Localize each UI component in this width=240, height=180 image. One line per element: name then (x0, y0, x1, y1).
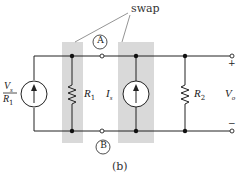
r1-label: R1 (84, 87, 95, 102)
left-source-label-numerator: Vs (4, 80, 13, 94)
terminal-b-label: B (99, 140, 108, 150)
minus-sign: − (228, 118, 236, 128)
swap-annotation: swap (131, 2, 160, 15)
r2-label: R2 (194, 87, 205, 102)
output-voltage-label: Vo (225, 87, 235, 102)
figure-caption: (b) (112, 160, 128, 173)
terminal-a-label: A (96, 35, 105, 45)
is-label: Is (106, 87, 112, 102)
plus-sign: + (228, 58, 236, 68)
left-source-label-denominator: R1 (3, 93, 14, 107)
